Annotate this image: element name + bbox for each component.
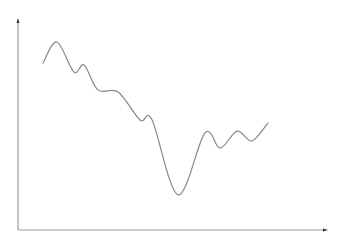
chart-canvas [0, 0, 346, 250]
line-chart [0, 0, 346, 250]
x-axis-arrow-icon [323, 229, 328, 232]
y-axis-arrow-icon [17, 18, 20, 23]
data-line [43, 42, 268, 195]
